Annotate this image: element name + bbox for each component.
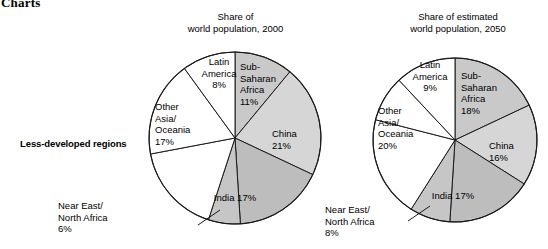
pie-label-india-2000: India 17% <box>199 192 271 204</box>
pie-label-other-asia-oceania-2000: Other Asia/ Oceania 17% <box>155 101 209 147</box>
pie-label-sub-saharan-africa-2000: Sub- Saharan Africa 11% <box>240 61 292 107</box>
charts-figure: Charts Less-developed regions Share of w… <box>0 0 548 249</box>
pie-label-near-east-north-africa-2000: Near East/ North Africa 6% <box>58 200 136 235</box>
row-label-less-developed-regions: Less-developed regions <box>20 138 127 150</box>
pie-label-near-east-north-africa-2050: Near East/ North Africa 8% <box>325 204 403 239</box>
pie-label-china-2050: China 16% <box>489 140 533 163</box>
chart-1-title: Share of world population, 2000 <box>163 11 308 34</box>
pie-label-china-2000: China 21% <box>272 128 316 151</box>
pie-label-latin-america-2000: Latin America 8% <box>197 56 241 91</box>
pie-label-india-2050: India 17% <box>417 190 489 202</box>
section-heading: Charts <box>1 0 40 10</box>
pie-label-sub-saharan-africa-2050: Sub- Saharan Africa 18% <box>461 70 513 116</box>
pie-label-other-asia-oceania-2050: Other Asia/ Oceania 20% <box>378 105 432 151</box>
chart-2-title: Share of estimated world population, 205… <box>383 11 533 34</box>
pie-label-latin-america-2050: Latin America 9% <box>408 59 452 94</box>
